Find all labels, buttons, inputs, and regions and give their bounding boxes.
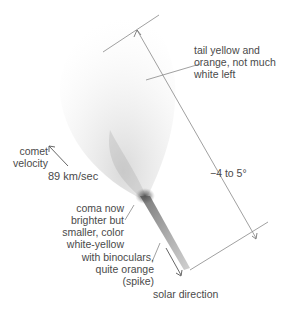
spike-label: with binoculars, quite orange (spike) [70, 251, 154, 287]
velocity-label-line: comet [12, 145, 48, 157]
spike-label-line: with binoculars, [70, 251, 154, 263]
spike-label-line: quite orange [70, 263, 154, 275]
velocity-label: comet velocity [12, 145, 48, 169]
spike-label-line: (spike) [70, 275, 154, 287]
tail-label-line: white left [194, 68, 276, 80]
tail-label: tail yellow and orange, not much white l… [194, 44, 276, 80]
tail-label-line: tail yellow and [194, 44, 276, 56]
solar-direction-label: solar direction [153, 288, 218, 300]
speed-label: 89 km/sec [48, 170, 98, 182]
coma-label-line: coma now [58, 202, 124, 214]
coma-label-line: brighter but [58, 214, 124, 226]
coma-label: coma now brighter but smaller, color whi… [58, 202, 124, 250]
tail-label-line: orange, not much [194, 56, 276, 68]
coma-label-line: white-yellow [58, 238, 124, 250]
angle-label: −4 to 5° [210, 167, 247, 179]
comet-diagram: tail yellow and orange, not much white l… [0, 0, 289, 309]
coma-label-line: smaller, color [58, 226, 124, 238]
velocity-label-line: velocity [12, 157, 48, 169]
